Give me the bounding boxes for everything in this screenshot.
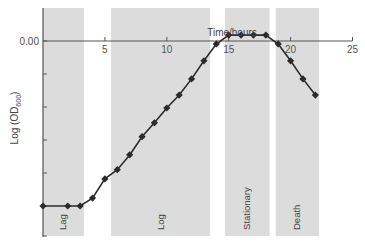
x-tick-label: 10: [161, 44, 173, 55]
x-tick-label: 15: [223, 44, 235, 55]
phase-label-lag: Lag: [57, 214, 68, 230]
phase-band-lag: [43, 8, 84, 236]
y-tick-label: 0.00: [20, 36, 40, 47]
x-tick-label: 25: [347, 44, 359, 55]
x-tick-label: 20: [285, 44, 297, 55]
phase-band-log: [111, 8, 210, 236]
x-tick-label: 5: [102, 44, 108, 55]
phase-band-death: [276, 8, 319, 236]
phase-label-death: Death: [291, 205, 302, 230]
growth-curve-chart: LagLogStationaryDeath 0.00510152025 Time…: [0, 0, 365, 246]
phase-label-log: Log: [155, 214, 166, 230]
phase-label-stationary: Stationary: [241, 187, 252, 230]
y-axis-title: Log (OD600): [9, 92, 22, 145]
x-axis-title: Time/hours: [207, 27, 257, 38]
